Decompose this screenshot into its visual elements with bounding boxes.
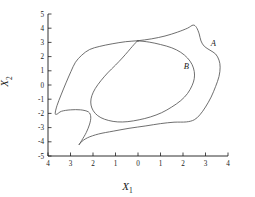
x-tick-label: 4 — [46, 160, 50, 168]
y-axis-label: X2 — [0, 62, 14, 102]
x-tick-label: 2 — [181, 160, 185, 168]
figure-container: 543210-1-2-3-4-5432101234 AB X1 X2 — [0, 0, 255, 197]
curve-label-B: B — [184, 61, 189, 71]
x-tick-label: 0 — [136, 160, 140, 168]
curve-B — [91, 41, 195, 122]
x-tick-label: 3 — [69, 160, 73, 168]
y-tick-label: -5 — [38, 153, 44, 161]
y-axis-label-subscript: 2 — [5, 76, 14, 80]
x-axis-label-text: X — [122, 180, 129, 192]
x-tick-label: 1 — [159, 160, 163, 168]
curve-labels-group: AB — [184, 38, 217, 71]
plot-canvas: 543210-1-2-3-4-5432101234 AB — [0, 0, 255, 197]
x-tick-label: 1 — [114, 160, 118, 168]
x-tick-label: 2 — [91, 160, 95, 168]
curve-label-A: A — [210, 38, 217, 48]
y-tick-label: 5 — [40, 11, 44, 19]
y-tick-label: 3 — [40, 39, 44, 47]
curve-A — [55, 25, 220, 145]
y-tick-label: 1 — [40, 67, 44, 75]
y-tick-label: 0 — [40, 82, 44, 90]
y-tick-label: -1 — [38, 96, 44, 104]
y-axis-label-text: X — [0, 80, 10, 87]
curves-group — [55, 25, 220, 145]
x-axis-label-subscript: 1 — [129, 186, 133, 195]
axes-group: 543210-1-2-3-4-5432101234 — [38, 11, 230, 168]
y-tick-label: 2 — [40, 53, 44, 61]
x-axis-label: X1 — [0, 180, 255, 195]
y-tick-label: -3 — [38, 124, 44, 132]
x-tick-label: 4 — [226, 160, 230, 168]
y-tick-label: -2 — [38, 110, 44, 118]
y-tick-label: -4 — [38, 138, 44, 146]
y-tick-label: 4 — [40, 25, 44, 33]
x-tick-label: 3 — [204, 160, 208, 168]
